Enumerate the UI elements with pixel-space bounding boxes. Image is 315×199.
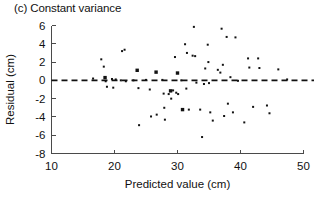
data-point bbox=[188, 109, 190, 111]
data-point bbox=[247, 57, 249, 59]
data-point bbox=[149, 89, 151, 91]
data-point bbox=[115, 78, 117, 80]
data-point bbox=[268, 112, 270, 114]
x-axis-tick-label: 50 bbox=[297, 160, 310, 172]
data-point bbox=[154, 70, 157, 73]
data-point bbox=[121, 50, 123, 52]
data-point bbox=[204, 67, 206, 69]
data-point bbox=[286, 78, 288, 80]
data-point bbox=[248, 67, 250, 69]
data-point bbox=[209, 111, 211, 113]
data-point bbox=[237, 80, 239, 82]
data-point bbox=[177, 93, 179, 95]
data-point bbox=[252, 106, 254, 108]
data-point bbox=[223, 115, 225, 117]
data-point bbox=[234, 36, 236, 38]
x-axis-tick-label: 10 bbox=[45, 160, 58, 172]
data-point bbox=[150, 115, 152, 117]
data-point bbox=[232, 111, 234, 113]
data-point bbox=[201, 136, 203, 138]
data-point bbox=[163, 93, 165, 95]
axes-group bbox=[52, 26, 304, 154]
data-point bbox=[227, 103, 229, 105]
y-axis-tick-label: -4 bbox=[35, 111, 46, 123]
data-point bbox=[138, 124, 140, 126]
data-point bbox=[120, 79, 122, 81]
data-point bbox=[172, 89, 174, 91]
data-point bbox=[222, 64, 224, 66]
data-point bbox=[199, 109, 201, 111]
y-axis-tick-label: -6 bbox=[35, 129, 45, 141]
data-point bbox=[184, 43, 186, 45]
data-point bbox=[164, 119, 166, 121]
data-point bbox=[105, 80, 107, 82]
data-point bbox=[219, 72, 221, 74]
y-axis-title: Residual (cm) bbox=[4, 54, 16, 125]
data-point bbox=[163, 107, 165, 109]
data-point bbox=[207, 44, 209, 46]
data-point bbox=[132, 79, 134, 81]
data-point bbox=[203, 83, 205, 85]
data-point bbox=[266, 105, 268, 107]
data-point bbox=[258, 67, 260, 69]
data-point bbox=[145, 79, 147, 81]
data-point bbox=[193, 26, 195, 28]
data-point bbox=[180, 79, 182, 81]
data-point bbox=[217, 69, 219, 71]
data-point bbox=[112, 87, 114, 89]
x-axis-tick-label: 40 bbox=[234, 160, 247, 172]
data-point bbox=[92, 78, 94, 80]
data-point bbox=[135, 69, 138, 72]
data-point bbox=[170, 98, 172, 100]
y-axis-tick-label: 2 bbox=[39, 56, 45, 68]
data-point bbox=[156, 114, 158, 116]
data-point bbox=[169, 89, 172, 92]
data-point bbox=[181, 108, 184, 111]
data-point bbox=[185, 88, 187, 90]
y-axis-tick-label: 4 bbox=[39, 38, 46, 50]
data-point bbox=[176, 71, 179, 74]
data-point bbox=[125, 80, 127, 82]
scatter-plot-canvas: 6420-2-4-6-81020304050Predicted value (c… bbox=[0, 0, 315, 199]
data-point bbox=[124, 49, 126, 51]
x-axis-tick-label: 20 bbox=[108, 160, 121, 172]
data-point bbox=[243, 121, 245, 123]
data-point bbox=[192, 55, 194, 57]
data-point bbox=[226, 36, 228, 38]
data-point bbox=[195, 82, 197, 84]
data-point bbox=[174, 56, 176, 58]
data-point bbox=[208, 82, 210, 84]
x-axis-title: Predicted value (cm) bbox=[125, 178, 231, 190]
data-point bbox=[111, 78, 113, 80]
data-point bbox=[186, 52, 188, 54]
data-point bbox=[137, 87, 139, 89]
data-points-group bbox=[92, 26, 288, 138]
data-point bbox=[103, 66, 105, 68]
data-point bbox=[221, 28, 223, 30]
data-point bbox=[168, 93, 170, 95]
data-point bbox=[212, 120, 214, 122]
data-point bbox=[257, 57, 259, 59]
data-point bbox=[161, 79, 163, 81]
y-axis-tick-label: 6 bbox=[39, 20, 45, 32]
data-point bbox=[106, 86, 108, 88]
data-point bbox=[103, 76, 106, 79]
data-point bbox=[277, 68, 279, 70]
data-point bbox=[175, 92, 177, 94]
data-point bbox=[229, 76, 231, 78]
residual-plot-figure: (c) Constant variance 6420-2-4-6-8102030… bbox=[0, 0, 315, 199]
x-axis-tick-label: 30 bbox=[171, 160, 184, 172]
y-axis-tick-label: -2 bbox=[35, 93, 45, 105]
y-axis-tick-label: 0 bbox=[39, 74, 45, 86]
axis-labels-group: 6420-2-4-6-81020304050Predicted value (c… bbox=[4, 20, 310, 190]
y-axis-tick-label: -8 bbox=[35, 148, 45, 160]
data-point bbox=[100, 58, 102, 60]
data-point bbox=[207, 61, 209, 63]
data-point bbox=[194, 55, 196, 57]
